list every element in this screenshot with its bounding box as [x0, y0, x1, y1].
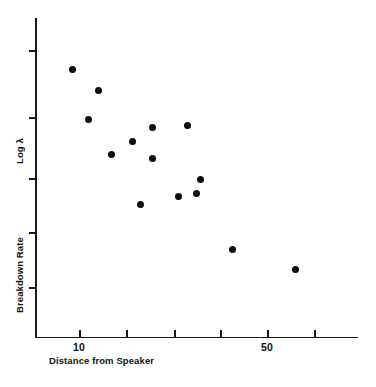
y-axis-title-line-2: Breakdown Rate	[14, 232, 28, 318]
datapoint	[193, 190, 200, 197]
x-axis-ticklabel-50: 50	[261, 341, 273, 353]
x-axis-tick-2	[174, 330, 176, 337]
y-axis-tick-0	[29, 50, 36, 52]
datapoint	[85, 116, 92, 123]
y-axis-tick-1	[29, 117, 36, 119]
plot-area: 1050 Distance from Speaker Log λ Breakdo…	[0, 0, 376, 387]
y-axis-tick-3	[29, 232, 36, 234]
y-axis-tick-2	[29, 178, 36, 180]
datapoint	[149, 155, 156, 162]
x-axis-tick-0	[79, 330, 81, 337]
datapoint	[69, 66, 76, 73]
x-axis-tick-3	[220, 330, 222, 337]
datapoint	[184, 122, 191, 129]
datapoint	[95, 87, 102, 94]
x-axis-tick-1	[126, 330, 128, 337]
x-axis-tick-5	[314, 330, 316, 337]
y-axis-title-line-1: Log λ	[14, 128, 28, 174]
x-axis-tick-4	[267, 330, 269, 337]
datapoint	[129, 138, 136, 145]
datapoint	[108, 151, 115, 158]
datapoint	[292, 266, 299, 273]
x-axis-ticklabel-10: 10	[73, 341, 85, 353]
y-axis-title: Log λ Breakdown Rate	[14, 128, 28, 318]
datapoint	[229, 246, 236, 253]
datapoint	[149, 124, 156, 131]
y-axis-tick-4	[29, 287, 36, 289]
scatter-plot-figure: 1050 Distance from Speaker Log λ Breakdo…	[0, 0, 376, 387]
x-axis-line	[35, 337, 358, 339]
x-axis-title: Distance from Speaker	[49, 355, 154, 366]
datapoint	[175, 193, 182, 200]
datapoint	[197, 176, 204, 183]
datapoint	[137, 201, 144, 208]
